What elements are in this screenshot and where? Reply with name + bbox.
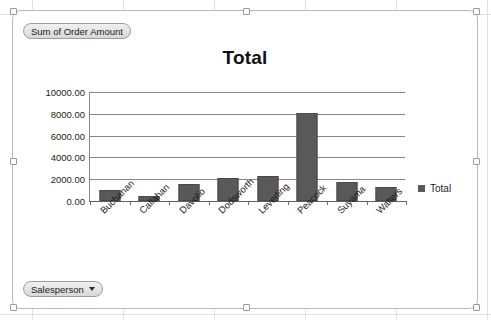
resize-handle-middle-left[interactable] bbox=[10, 158, 17, 165]
x-axis-tick bbox=[130, 201, 131, 205]
y-axis-tick-label: 4000.00 bbox=[25, 152, 85, 163]
chart-legend: Total bbox=[418, 183, 451, 194]
y-axis-tick-label: 6000.00 bbox=[25, 130, 85, 141]
legend-swatch-total bbox=[418, 185, 425, 192]
legend-label-total: Total bbox=[430, 183, 451, 194]
sheet-gridline bbox=[0, 314, 491, 315]
chart-object[interactable]: Sum of Order Amount Total 0.002000.00400… bbox=[12, 10, 478, 309]
x-axis-tick bbox=[288, 201, 289, 205]
pivot-value-field-button[interactable]: Sum of Order Amount bbox=[23, 23, 131, 39]
y-axis-tick-label: 10000.00 bbox=[25, 87, 85, 98]
sheet-gridline bbox=[487, 0, 488, 320]
chevron-down-icon[interactable] bbox=[89, 287, 95, 291]
y-axis-tick-label: 2000.00 bbox=[25, 174, 85, 185]
bar-slot bbox=[367, 92, 407, 201]
y-axis-tick-label: 0.00 bbox=[25, 196, 85, 207]
x-axis-tick bbox=[169, 201, 170, 205]
chart-title: Total bbox=[13, 47, 477, 69]
x-axis-tick bbox=[90, 201, 91, 205]
x-axis-tick bbox=[367, 201, 368, 205]
resize-handle-top-center[interactable] bbox=[243, 8, 250, 15]
resize-handle-bottom-center[interactable] bbox=[243, 304, 250, 311]
y-axis-tick-labels: 0.002000.004000.006000.008000.0010000.00 bbox=[21, 92, 85, 201]
pivot-axis-field-label: Salesperson bbox=[31, 284, 84, 295]
bar-slot bbox=[169, 92, 209, 201]
resize-handle-middle-right[interactable] bbox=[473, 158, 480, 165]
resize-handle-bottom-left[interactable] bbox=[10, 304, 17, 311]
x-axis-tick bbox=[248, 201, 249, 205]
y-axis-tick-label: 8000.00 bbox=[25, 108, 85, 119]
x-axis-tick bbox=[406, 201, 407, 205]
pivot-value-field-label: Sum of Order Amount bbox=[31, 26, 123, 37]
resize-handle-top-left[interactable] bbox=[10, 8, 17, 15]
resize-handle-top-right[interactable] bbox=[473, 8, 480, 15]
pivot-axis-field-button[interactable]: Salesperson bbox=[23, 281, 103, 297]
resize-handle-bottom-right[interactable] bbox=[473, 304, 480, 311]
x-axis-tick bbox=[327, 201, 328, 205]
x-axis-tick bbox=[209, 201, 210, 205]
